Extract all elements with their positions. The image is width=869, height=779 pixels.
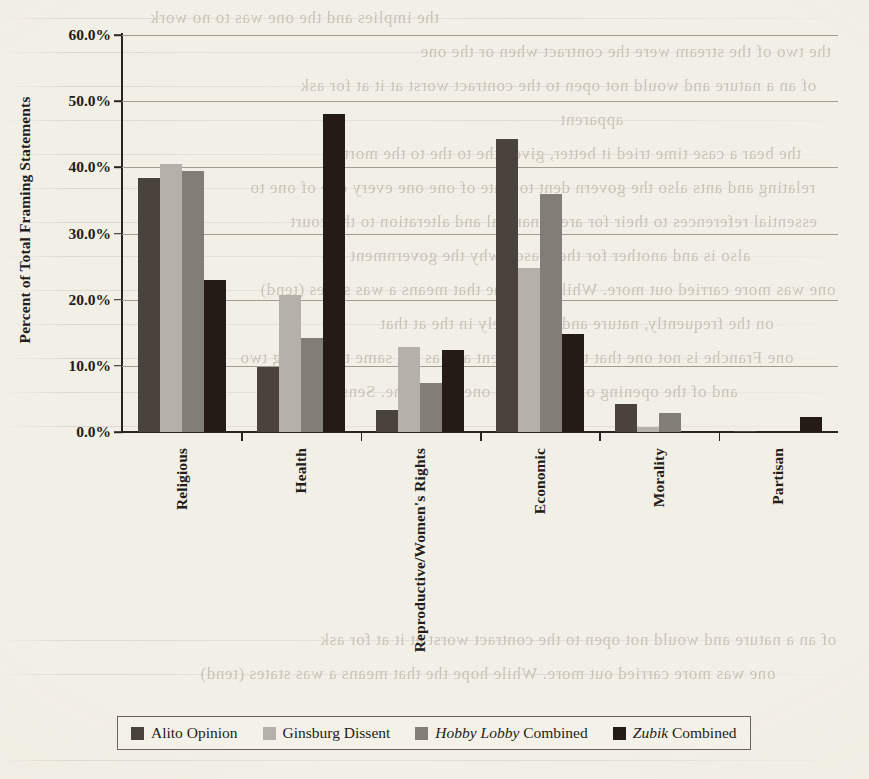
chart-legend: Alito OpinionGinsburg DissentHobby Lobby…	[117, 716, 751, 750]
bar[interactable]	[160, 164, 182, 432]
bar[interactable]	[540, 194, 562, 432]
x-axis-label-cell: Health	[241, 444, 360, 694]
bar[interactable]	[637, 427, 659, 432]
x-axis-category-label: Reproductive/Women's Rights	[411, 448, 429, 652]
legend-swatch-icon	[131, 727, 144, 740]
y-axis-tick-label: 50.0%	[68, 92, 111, 110]
bar-group	[719, 35, 838, 432]
y-axis-tick-mark	[114, 34, 122, 36]
y-axis-tick-mark	[114, 233, 122, 235]
bar-chart: Percent of Total Framing Statements 0.0%…	[0, 0, 869, 779]
x-axis-category-label: Morality	[650, 448, 668, 507]
legend-item[interactable]: Zubik Combined	[613, 724, 737, 742]
x-axis-category-label: Health	[292, 448, 310, 493]
bar[interactable]	[138, 178, 160, 432]
legend-swatch-icon	[613, 727, 626, 740]
y-axis-tick-label: 20.0%	[68, 291, 111, 309]
bar[interactable]	[734, 431, 756, 432]
bar[interactable]	[376, 410, 398, 432]
x-axis-category-labels: ReligiousHealthReproductive/Women's Righ…	[122, 444, 838, 694]
y-axis-tick-mark	[114, 431, 122, 433]
x-axis-label-cell: Economic	[480, 444, 599, 694]
y-axis-tick-label: 30.0%	[68, 225, 111, 243]
y-axis-tick-label: 60.0%	[68, 26, 111, 44]
bar-group	[122, 35, 241, 432]
legend-item[interactable]: Hobby Lobby Combined	[415, 724, 587, 742]
y-axis-tick-mark	[114, 299, 122, 301]
x-axis-group-divider	[361, 432, 363, 441]
y-axis-tick-mark	[114, 100, 122, 102]
bar[interactable]	[562, 334, 584, 432]
legend-label: Hobby Lobby Combined	[435, 724, 587, 742]
x-axis-label-cell: Reproductive/Women's Rights	[361, 444, 480, 694]
legend-item[interactable]: Alito Opinion	[131, 724, 238, 742]
x-axis-category-label: Religious	[173, 448, 191, 510]
bar[interactable]	[182, 171, 204, 432]
bar[interactable]	[204, 280, 226, 432]
x-axis-category-label: Partisan	[769, 448, 787, 505]
x-axis-group-divider	[480, 432, 482, 441]
bar[interactable]	[323, 114, 345, 432]
plot-area: 0.0%10.0%20.0%30.0%40.0%50.0%60.0%	[122, 35, 838, 432]
y-axis-tick-mark	[114, 365, 122, 367]
y-axis-tick-label: 10.0%	[68, 357, 111, 375]
legend-label: Zubik Combined	[633, 724, 737, 742]
x-axis-label-cell: Morality	[599, 444, 718, 694]
bar[interactable]	[257, 367, 279, 433]
y-axis-title-text: Percent of Total Framing Statements	[16, 97, 34, 344]
x-axis-group-divider	[241, 432, 243, 441]
bar[interactable]	[301, 338, 323, 432]
bars-area	[122, 35, 838, 432]
y-axis-tick-label: 0.0%	[76, 423, 111, 441]
bar-group	[361, 35, 480, 432]
x-axis-label-cell: Religious	[122, 444, 241, 694]
bar[interactable]	[800, 417, 822, 432]
x-axis-category-label: Economic	[531, 448, 549, 514]
bar[interactable]	[659, 413, 681, 432]
y-axis-tick-mark	[114, 167, 122, 169]
x-axis-label-cell: Partisan	[719, 444, 838, 694]
legend-label: Alito Opinion	[151, 724, 238, 742]
legend-item[interactable]: Ginsburg Dissent	[263, 724, 391, 742]
bar[interactable]	[279, 295, 301, 432]
bar[interactable]	[496, 139, 518, 432]
x-axis-group-divider	[719, 432, 721, 441]
bar-group	[599, 35, 718, 432]
legend-label: Ginsburg Dissent	[283, 724, 391, 742]
y-axis-tick-label: 40.0%	[68, 158, 111, 176]
bar[interactable]	[615, 404, 637, 432]
legend-swatch-icon	[263, 727, 276, 740]
bar[interactable]	[518, 268, 540, 432]
bar[interactable]	[398, 347, 420, 432]
x-axis-group-divider	[599, 432, 601, 441]
y-axis-title: Percent of Total Framing Statements	[10, 0, 40, 440]
bar-group	[480, 35, 599, 432]
legend-swatch-icon	[415, 727, 428, 740]
bar[interactable]	[420, 383, 442, 432]
bar-group	[241, 35, 360, 432]
bar[interactable]	[442, 350, 464, 432]
